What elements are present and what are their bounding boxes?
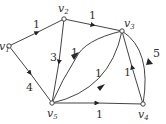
label-v2: v2 (58, 2, 69, 16)
graph-canvas: 1 1 3 4 1 1 5 1 1 v1 v2 v3 v4 v5 (0, 0, 166, 124)
weight-v2-v3: 1 (89, 9, 96, 22)
weight-v1-v5: 4 (26, 81, 33, 94)
weight-v5-v4: 1 (96, 108, 103, 121)
weight-v3-v5: 1 (71, 46, 78, 59)
edge-v1-v5 (9, 46, 52, 103)
node-v5 (50, 101, 54, 105)
label-v4: v4 (138, 108, 149, 122)
node-v2 (62, 17, 66, 21)
node-v4 (141, 102, 145, 106)
label-v3: v3 (124, 17, 135, 31)
weight-v2-v5: 3 (50, 51, 57, 64)
label-v1: v1 (0, 40, 10, 54)
weight-v1-v2: 1 (33, 18, 40, 31)
edge-v5-v4 (52, 103, 143, 104)
label-v5: v5 (47, 107, 58, 121)
weight-v5-v3: 1 (95, 67, 102, 80)
weight-v3-v4: 5 (153, 47, 160, 60)
weight-v4-v3: 1 (124, 66, 131, 79)
edge-v3-v5-curve (52, 31, 122, 103)
edge-v5-v3-curve (52, 31, 122, 103)
